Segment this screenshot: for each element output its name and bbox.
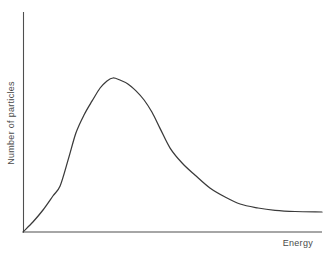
distribution-curve bbox=[23, 78, 322, 232]
y-axis-label: Number of particles bbox=[6, 81, 16, 165]
chart-canvas bbox=[0, 0, 329, 260]
x-axis-label: Energy bbox=[283, 238, 313, 248]
energy-distribution-chart: Number of particles Energy bbox=[0, 0, 329, 260]
